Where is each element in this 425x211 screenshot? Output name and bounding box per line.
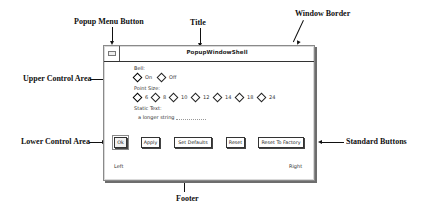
popup-window-shell: PopupWindowShell Bell: On Off Point Size… bbox=[103, 45, 315, 181]
reset-to-factory-button[interactable]: Reset To Factory bbox=[258, 137, 304, 148]
popup-menu-icon bbox=[108, 51, 116, 56]
point-size-10-label: 10 bbox=[181, 94, 187, 100]
static-text-value: a longer string bbox=[138, 114, 175, 120]
static-text-dotted-leader bbox=[176, 119, 206, 120]
arrow-standard-buttons bbox=[322, 142, 344, 143]
callout-footer: Footer bbox=[176, 195, 199, 203]
arrow-window-border bbox=[293, 20, 304, 42]
point-size-24-label: 24 bbox=[269, 94, 275, 100]
point-size-14-radio[interactable] bbox=[213, 93, 223, 103]
callout-popup-menu-button: Popup Menu Button bbox=[74, 18, 144, 26]
bell-option-off-radio[interactable] bbox=[157, 73, 167, 83]
static-text-label: Static Text: bbox=[134, 105, 162, 111]
callout-title: Title bbox=[190, 19, 206, 27]
footer-right: Right bbox=[289, 163, 302, 169]
point-size-6-label: 6 bbox=[145, 94, 148, 100]
callout-window-border: Window Border bbox=[295, 10, 350, 18]
apply-button[interactable]: Apply bbox=[141, 137, 160, 148]
point-size-8-radio[interactable] bbox=[151, 93, 161, 103]
callout-standard-buttons: Standard Buttons bbox=[346, 138, 407, 146]
bell-option-off-label: Off bbox=[169, 74, 176, 80]
arrow-popup-menu-button bbox=[112, 27, 113, 42]
title-bar: PopupWindowShell bbox=[104, 46, 314, 62]
reset-button[interactable]: Reset bbox=[226, 137, 245, 148]
point-size-6-radio[interactable] bbox=[133, 93, 143, 103]
footer-left: Left bbox=[114, 163, 123, 169]
ok-button[interactable]: Ok bbox=[114, 137, 127, 148]
point-size-12-label: 12 bbox=[203, 94, 209, 100]
popup-menu-button[interactable] bbox=[104, 46, 120, 61]
point-size-12-radio[interactable] bbox=[191, 93, 201, 103]
point-size-label: Point Size: bbox=[134, 85, 160, 91]
point-size-18-radio[interactable] bbox=[235, 93, 245, 103]
set-defaults-button[interactable]: Set Defaults bbox=[174, 137, 212, 148]
point-size-10-radio[interactable] bbox=[169, 93, 179, 103]
point-size-24-radio[interactable] bbox=[257, 93, 267, 103]
arrow-lower-control-area bbox=[89, 142, 102, 143]
bell-option-on-label: On bbox=[145, 74, 152, 80]
arrow-title bbox=[200, 28, 201, 44]
arrowhead-standard-buttons bbox=[318, 140, 322, 144]
point-size-18-label: 18 bbox=[247, 94, 253, 100]
window-title: PopupWindowShell bbox=[120, 49, 314, 55]
callout-upper-control-area: Upper Control Area bbox=[23, 75, 91, 83]
bell-label: Bell: bbox=[134, 65, 145, 71]
point-size-8-label: 8 bbox=[163, 94, 166, 100]
point-size-14-label: 14 bbox=[225, 94, 231, 100]
callout-lower-control-area: Lower Control Area bbox=[21, 138, 90, 146]
bell-option-on-radio[interactable] bbox=[133, 73, 143, 83]
